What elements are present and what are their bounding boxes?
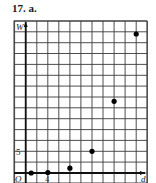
scatter-plot: WdO45: [0, 0, 156, 183]
data-point: [67, 166, 72, 171]
data-point: [29, 170, 34, 175]
data-point: [112, 99, 117, 104]
y-axis-arrow-icon: [24, 22, 28, 27]
x-axis-label: d: [141, 174, 146, 183]
x-tick-label: 4: [45, 175, 49, 183]
data-point: [134, 31, 139, 36]
data-point: [45, 170, 50, 175]
y-axis-label: W: [16, 22, 25, 32]
origin-label: O: [15, 174, 22, 183]
data-point: [89, 149, 94, 154]
y-tick-label: 5: [16, 147, 21, 157]
grid: [14, 21, 147, 183]
